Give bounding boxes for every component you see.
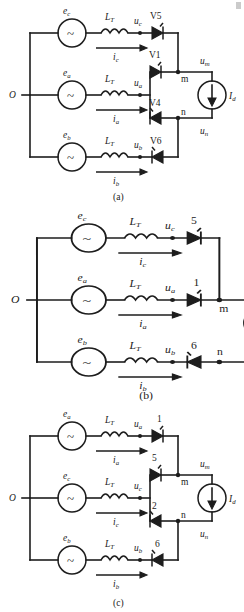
voltage-label-uc-c: uc bbox=[134, 481, 142, 492]
circuit-panel-c: O ~ ea LT ua 1 ia ~ ec bbox=[0, 403, 244, 612]
node-m-label-c: m bbox=[181, 477, 189, 487]
diode-v1-gate-a bbox=[158, 62, 161, 66]
diode-v1-body-a bbox=[150, 66, 161, 78]
node-uc-a bbox=[138, 31, 142, 35]
inductor-label-b-c: LT bbox=[104, 539, 115, 550]
inductor-label-a-b: LT bbox=[128, 279, 141, 291]
device-label-1-c: 1 bbox=[157, 414, 162, 424]
inductor-c-c bbox=[101, 494, 128, 498]
ac-source-symbol: ~ bbox=[67, 150, 74, 165]
inductor-label-c-b: LT bbox=[128, 217, 141, 229]
node-m-label-b: m bbox=[219, 304, 229, 314]
current-arrow-b-head-c bbox=[140, 572, 147, 578]
emf-label-b-a: eb bbox=[63, 130, 71, 141]
panel-c-svg: O ~ ea LT ua 1 ia ~ ec bbox=[0, 403, 244, 612]
emf-label-c-c: ec bbox=[63, 471, 70, 482]
emf-label-b-b: eb bbox=[78, 335, 88, 347]
diode-v4-body-a bbox=[150, 112, 161, 124]
device-label-v1-a: V1 bbox=[149, 50, 161, 60]
diode-1-gate-c bbox=[160, 426, 163, 430]
node-m-dot-b bbox=[217, 298, 222, 302]
diode-6-body-c bbox=[152, 554, 163, 566]
current-arrow-a-head-b bbox=[173, 312, 182, 318]
diode-5-body-c bbox=[150, 469, 161, 481]
node-ua-b bbox=[170, 298, 175, 302]
emf-label-a-c: ea bbox=[63, 409, 71, 420]
voltage-label-ua-b: ua bbox=[165, 283, 175, 295]
node-ub-c bbox=[138, 558, 142, 562]
emf-label-a-a: ea bbox=[63, 68, 71, 79]
node-n-label-b: n bbox=[217, 347, 224, 357]
node-ua-a bbox=[138, 93, 142, 97]
current-arrow-a-head-c bbox=[140, 448, 147, 454]
inductor-label-c-a: LT bbox=[104, 12, 115, 23]
diode-v6-body-a bbox=[152, 151, 163, 163]
emf-label-c-b: ec bbox=[78, 211, 88, 223]
voltage-label-un-c: un bbox=[200, 529, 209, 540]
current-source-label-a: Id bbox=[228, 91, 236, 102]
current-source-arrow-head-c bbox=[208, 501, 216, 509]
node-n-label-c: n bbox=[181, 510, 186, 520]
voltage-label-uc-a: uc bbox=[134, 16, 142, 27]
current-label-ic-b: ic bbox=[139, 257, 147, 269]
device-label-v5-a: V5 bbox=[150, 11, 162, 21]
circuit-panel-a: O ~ ec LT uc V5 ic ~ bbox=[0, 0, 244, 205]
device-label-v6-a: V6 bbox=[150, 136, 162, 146]
voltage-label-ub-c: ub bbox=[134, 543, 143, 554]
emf-label-b-c: eb bbox=[63, 533, 71, 544]
panel-caption-b: (b) bbox=[139, 391, 153, 402]
inductor-b-b bbox=[124, 358, 157, 362]
voltage-label-ua-a: ua bbox=[134, 78, 143, 89]
diode-5-gate-c bbox=[158, 465, 161, 469]
inductor-label-c-c: LT bbox=[104, 477, 115, 488]
node-o-label-a: O bbox=[9, 90, 16, 100]
inductor-label-b-b: LT bbox=[128, 341, 141, 353]
current-arrow-c-head-a bbox=[140, 45, 147, 51]
ac-source-symbol: ~ bbox=[83, 293, 92, 307]
current-label-ia-a: ia bbox=[113, 114, 120, 125]
node-ua-c bbox=[138, 434, 142, 438]
node-o-label-c: O bbox=[9, 493, 16, 503]
device-label-5-c: 5 bbox=[152, 453, 157, 463]
panel-caption-c: (c) bbox=[113, 598, 124, 609]
figure-page: O ~ ec LT uc V5 ic ~ bbox=[0, 0, 244, 612]
diode-5-gate-b bbox=[197, 228, 201, 232]
diode-1-gate-b bbox=[197, 290, 201, 294]
diode-6-gate-b bbox=[187, 352, 191, 356]
current-label-ia-b: ia bbox=[139, 319, 147, 331]
voltage-label-un-a: un bbox=[200, 126, 209, 137]
node-n-dot-b bbox=[217, 360, 222, 364]
device-label-1-b: 1 bbox=[193, 278, 199, 288]
node-n-label-a: n bbox=[181, 107, 186, 117]
ac-source-symbol: ~ bbox=[67, 491, 74, 506]
inductor-label-a-a: LT bbox=[104, 74, 115, 85]
device-label-6-c: 6 bbox=[155, 539, 160, 549]
circuit-panel-b: O ~ ec LT uc 5 ic ~ ea bbox=[0, 205, 244, 403]
voltage-label-ub-a: ub bbox=[134, 140, 143, 151]
diode-2-body-c bbox=[150, 515, 161, 527]
current-label-ic-c: ic bbox=[113, 517, 119, 528]
inductor-label-a-c: LT bbox=[104, 415, 115, 426]
inductor-label-b-a: LT bbox=[104, 136, 115, 147]
current-arrow-b-head-a bbox=[140, 169, 147, 175]
diode-6-body-b bbox=[187, 356, 201, 368]
ac-source-symbol: ~ bbox=[83, 355, 92, 369]
current-label-ia-c: ia bbox=[113, 455, 120, 466]
node-ub-a bbox=[138, 155, 142, 159]
current-label-ib-c: ib bbox=[113, 579, 120, 590]
ac-source-symbol: ~ bbox=[67, 88, 74, 103]
diode-1-body-c bbox=[152, 430, 163, 442]
emf-label-c-a: ec bbox=[63, 6, 70, 17]
emf-label-a-b: ea bbox=[78, 273, 88, 285]
voltage-label-uc-b: uc bbox=[165, 221, 175, 233]
diode-v6-gate-a bbox=[152, 147, 155, 151]
node-ub-b bbox=[170, 360, 175, 364]
current-arrow-c-head-b bbox=[173, 250, 182, 256]
inductor-b-c bbox=[101, 556, 128, 560]
panel-a-svg: O ~ ec LT uc V5 ic ~ bbox=[0, 0, 244, 205]
diode-1-body-b bbox=[187, 294, 201, 306]
diode-6-gate-c bbox=[152, 550, 155, 554]
current-arrow-a-head-a bbox=[140, 107, 147, 113]
voltage-label-um-a: um bbox=[200, 56, 210, 67]
panel-caption-a: (a) bbox=[113, 192, 124, 203]
